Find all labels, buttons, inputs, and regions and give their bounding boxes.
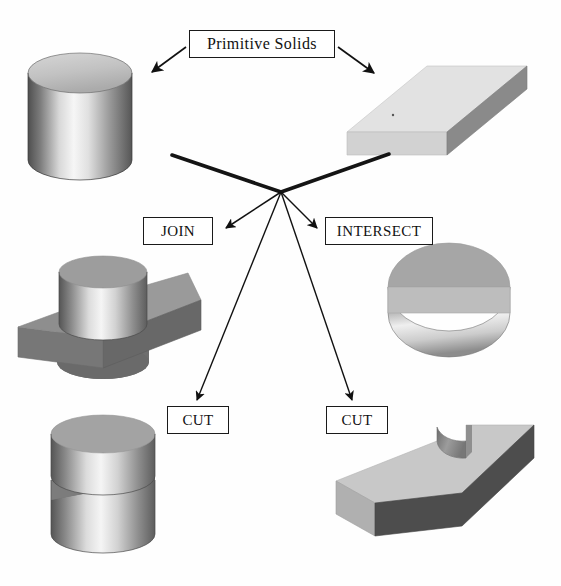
shape-cut-right-result (336, 425, 534, 536)
connector-block-to-hub (281, 154, 389, 192)
label-intersect-text: INTERSECT (337, 223, 421, 240)
shape-intersect-result (388, 243, 510, 357)
diagram-canvas: Primitive Solids JOIN INTERSECT CUT CUT (0, 0, 561, 586)
label-cut-right-text: CUT (341, 412, 372, 429)
shape-cut-left-result (51, 415, 155, 553)
shape-block-primitive (347, 66, 527, 155)
label-primitive-solids-text: Primitive Solids (207, 35, 317, 53)
shape-join-result (18, 256, 201, 379)
label-cut-left: CUT (167, 406, 229, 434)
connector-hub-to-intersect (281, 192, 317, 228)
connector-hub-to-join (226, 192, 281, 228)
label-cut-right: CUT (326, 406, 388, 434)
diagram-graphics (0, 0, 561, 586)
label-join-text: JOIN (161, 223, 195, 240)
shape-cylinder-primitive (28, 53, 132, 180)
connector-primitive-to-block (338, 47, 374, 73)
connector-primitive-to-cylinder (152, 47, 186, 72)
label-primitive-solids: Primitive Solids (189, 30, 335, 58)
label-intersect: INTERSECT (325, 217, 433, 245)
connector-cylinder-to-hub (172, 155, 281, 192)
label-cut-left-text: CUT (182, 412, 213, 429)
label-join: JOIN (143, 217, 213, 245)
